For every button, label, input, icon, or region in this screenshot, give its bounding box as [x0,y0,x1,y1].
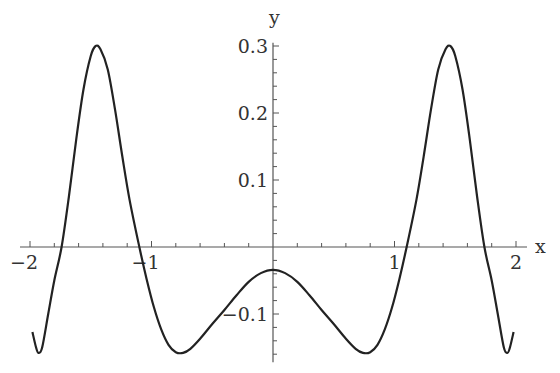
x-axis-ticks: −2−112 [10,241,522,273]
y-axis-ticks: 0.30.20.1−0.1 [222,35,279,354]
x-axis-label: x [535,235,546,257]
y-tick-label: 0.2 [238,102,268,124]
x-tick-label: 2 [510,251,522,273]
x-axis: −2−112 x [10,235,546,273]
y-tick-label: 0.1 [238,169,268,191]
y-tick-label: 0.3 [238,35,268,57]
y-axis-label: y [268,6,280,28]
function-plot: −2−112 x 0.30.20.1−0.1 y [0,0,560,373]
x-tick-label: −2 [10,251,38,273]
x-tick-label: 1 [388,251,400,273]
y-axis: 0.30.20.1−0.1 y [222,6,280,362]
